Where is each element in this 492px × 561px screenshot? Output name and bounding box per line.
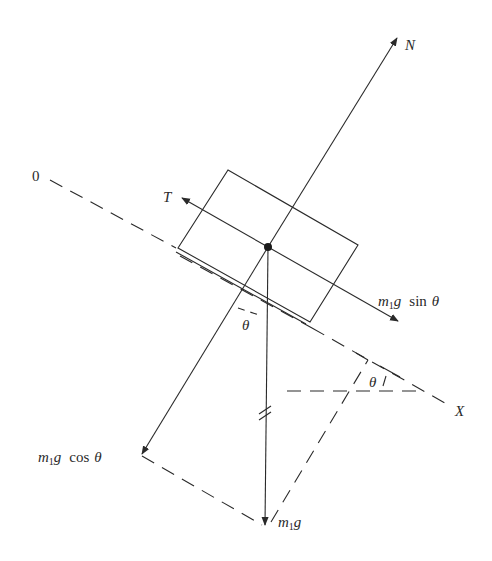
dashed-corner-tick (356, 353, 368, 360)
x-axis-label: X (454, 403, 465, 419)
theta-label-right: θ (369, 374, 377, 390)
tension-label: T (163, 189, 173, 205)
normal-force-arrow (268, 38, 397, 247)
angle-arc-lower (238, 308, 262, 316)
origin-label: 0 (32, 168, 40, 184)
angle-arc-right (380, 366, 400, 377)
perpendicular-component-arrow (142, 247, 268, 454)
free-body-diagram: 0 X N T m1gsinθ m1gcosθ m1g θ θ (0, 0, 492, 561)
weight-arrow (265, 247, 268, 525)
theta-label-lower: θ (242, 317, 250, 333)
normal-label: N (404, 37, 416, 53)
dashed-weight-to-corner (271, 360, 368, 522)
theta-right-tick (383, 376, 386, 386)
dashed-cos-to-weight (142, 456, 262, 525)
perpendicular-component-label: m1gcosθ (38, 449, 102, 467)
weight-label: m1g (278, 514, 302, 532)
parallel-component-label: m1gsinθ (378, 293, 440, 311)
center-of-mass-dot (264, 243, 272, 251)
parallel-hash-marks (259, 406, 271, 420)
